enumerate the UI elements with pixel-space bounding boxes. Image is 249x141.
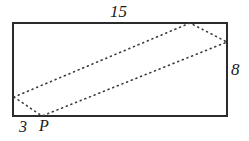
label-bottom-segment-3: 3 — [19, 119, 27, 135]
outer-rectangle — [13, 23, 227, 116]
label-top-side-15: 15 — [110, 3, 127, 20]
figure-canvas — [0, 0, 249, 141]
geometry-figure: 15 8 3 P — [0, 0, 249, 141]
label-point-p: P — [39, 118, 49, 134]
label-right-side-8: 8 — [231, 61, 240, 78]
inscribed-parallelogram — [14, 23, 227, 116]
